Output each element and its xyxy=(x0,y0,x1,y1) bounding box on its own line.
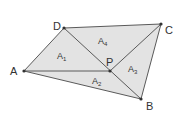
label-p: P xyxy=(106,56,113,68)
label-d: D xyxy=(53,20,61,32)
label-b: B xyxy=(146,100,153,112)
label-c: C xyxy=(165,24,173,36)
point-b xyxy=(139,97,142,100)
quadrilateral-abcd xyxy=(24,24,161,99)
point-d xyxy=(62,26,65,29)
point-p xyxy=(108,69,111,72)
label-a: A xyxy=(10,65,18,77)
point-a xyxy=(22,69,25,72)
quadrilateral-diagram: A B C D P A1 A2 A3 A4 xyxy=(0,0,179,130)
point-c xyxy=(159,22,162,25)
